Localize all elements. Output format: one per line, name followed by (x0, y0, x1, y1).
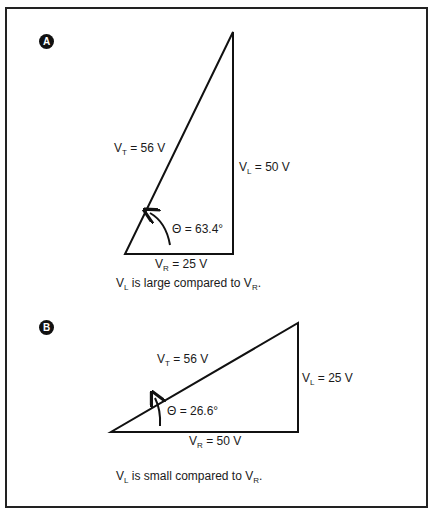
label-theta-a: Θ = 63.4° (172, 222, 223, 236)
label-vr-b: VR = 50 V (189, 434, 241, 453)
angle-arrow-a (150, 213, 170, 245)
label-vt-b: VT = 56 V (157, 352, 208, 371)
caption-b: VL is small compared to VR. (116, 469, 262, 485)
caption-a: VL is large compared to VR. (116, 276, 261, 292)
label-vl-a: VL = 50 V (239, 160, 290, 179)
angle-arrow-b (155, 398, 160, 426)
panel-badge-a: A (39, 34, 54, 49)
label-vt-a: VT = 56 V (114, 141, 165, 160)
panel-badge-b: B (39, 320, 54, 335)
label-theta-b: Θ = 26.6° (167, 404, 218, 418)
label-vl-b: VL = 25 V (302, 371, 353, 390)
label-vr-a: VR = 25 V (155, 257, 207, 276)
